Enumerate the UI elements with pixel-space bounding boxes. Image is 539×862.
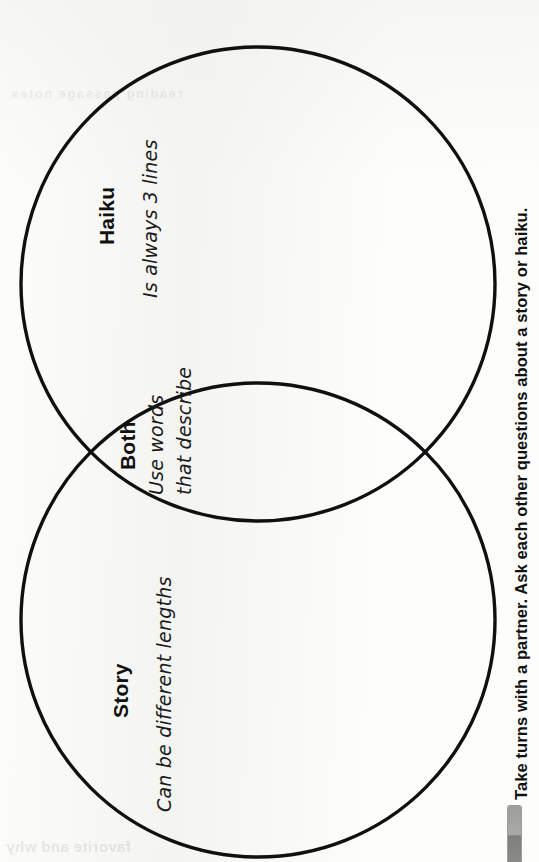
venn-diagram <box>0 0 539 862</box>
story-entry-1: Can be different lengths <box>151 577 179 812</box>
story-region-heading: Story <box>109 663 133 718</box>
haiku-region-heading: Haiku <box>95 187 119 245</box>
haiku-entry-1: Is always 3 lines <box>137 139 165 298</box>
binding-edge-artifact <box>508 806 521 862</box>
both-entry-1: Use words <box>143 367 171 495</box>
worksheet-page: reading passage notes favorite and why H… <box>0 0 539 862</box>
instruction-text: Take turns with a partner. Ask each othe… <box>512 208 531 800</box>
both-region-entries: Use words that describe <box>143 367 198 495</box>
both-entry-2: that describe <box>171 367 199 495</box>
story-region-entries: Can be different lengths <box>151 577 179 812</box>
haiku-region-entries: Is always 3 lines <box>137 139 165 298</box>
both-region-heading: Both <box>116 421 140 470</box>
